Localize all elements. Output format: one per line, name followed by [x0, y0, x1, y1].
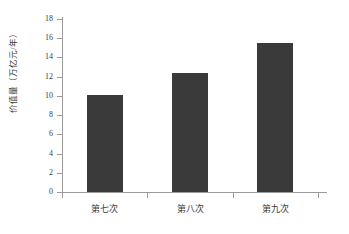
y-axis-tick-label-text: 16 — [34, 34, 53, 42]
plot-area — [62, 19, 318, 192]
y-axis-tick-label: 16 — [34, 34, 53, 42]
y-axis-tick-label-text: 12 — [34, 73, 53, 81]
y-axis-tick-label-text: 2 — [34, 169, 53, 177]
y-axis-tick-label-text: 14 — [34, 53, 53, 61]
y-axis-tick-label: 14 — [34, 53, 53, 61]
bar — [257, 43, 293, 192]
y-axis-tick-label-text: 4 — [34, 150, 53, 158]
x-axis-tick — [318, 193, 319, 198]
bar-chart: 价值量（万亿元/年） 024681012141618 第七次第八次第九次 — [0, 0, 349, 234]
y-axis-tick-label: 18 — [34, 15, 53, 23]
x-axis-tick-label: 第九次 — [235, 204, 315, 215]
y-axis-tick-label-text: 18 — [34, 15, 53, 23]
x-axis-tick — [62, 193, 63, 198]
y-axis-tick-label: 2 — [34, 169, 53, 177]
bar — [172, 73, 208, 192]
x-axis-tick-label: 第七次 — [65, 204, 145, 215]
x-axis-tick — [233, 193, 234, 198]
y-axis-tick-label: 4 — [34, 150, 53, 158]
y-axis-tick-label-text: 10 — [34, 92, 53, 100]
y-axis-tick-label: 10 — [34, 92, 53, 100]
bar — [87, 95, 123, 192]
y-axis-tick-label: 8 — [34, 111, 53, 119]
y-axis-tick-label: 0 — [34, 188, 53, 196]
y-axis-tick-label-text: 6 — [34, 130, 53, 138]
x-axis-tick — [147, 193, 148, 198]
y-axis-tick-label: 12 — [34, 73, 53, 81]
x-axis-line — [62, 192, 327, 193]
x-axis-tick-label: 第八次 — [150, 204, 230, 215]
y-axis-title: 价值量（万亿元/年） — [8, 11, 18, 131]
y-axis-tick-label-text: 0 — [34, 188, 53, 196]
y-axis-tick-label: 6 — [34, 130, 53, 138]
y-axis-tick-label-text: 8 — [34, 111, 53, 119]
